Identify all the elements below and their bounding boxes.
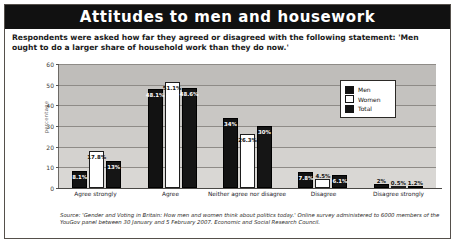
chart-page: Attitudes to men and housework Responden… xyxy=(0,0,457,247)
legend-label-men: Men xyxy=(358,86,371,93)
source-note: Source: 'Gender and Voting in Britain: H… xyxy=(60,212,445,226)
bar-women[interactable]: 17.8% xyxy=(89,151,104,188)
legend-swatch-women xyxy=(345,95,354,103)
x-axis-category-label: Neither agree nor disagree xyxy=(208,191,286,197)
chart-area: percentage 0102030405060 8.1%17.8%13%48.… xyxy=(10,58,447,210)
bar-value-label: 26.3% xyxy=(238,137,257,143)
bar-value-label: 8.1% xyxy=(72,174,87,180)
bar-men[interactable]: 34% xyxy=(223,118,238,188)
bar-group: 34%26.3%30% xyxy=(210,64,285,188)
bar-value-label: 1.2% xyxy=(408,180,423,186)
x-axis-labels: Agree stronglyAgreeNeither agree nor dis… xyxy=(58,191,436,197)
legend-item-women: Women xyxy=(345,95,392,103)
bar-men[interactable]: 8.1% xyxy=(72,171,87,188)
bar-total[interactable]: 48.6% xyxy=(182,88,197,188)
bar-men[interactable]: 48.1% xyxy=(148,89,163,188)
bar-value-label: 34% xyxy=(224,121,237,127)
bar-value-label: 30% xyxy=(258,129,271,135)
legend-item-total: Total xyxy=(345,105,392,113)
bar-women[interactable]: 4.5% xyxy=(315,179,330,188)
x-axis-category-label: Agree xyxy=(133,191,208,197)
bar-value-label: 4.5% xyxy=(315,173,330,179)
x-axis-line xyxy=(58,188,442,189)
x-axis-category-label: Agree strongly xyxy=(58,191,133,197)
bar-value-label: 7.8% xyxy=(298,175,313,181)
bar-total[interactable]: 13% xyxy=(106,161,121,188)
bar-total[interactable]: 6.1% xyxy=(332,175,347,188)
intro-paragraph: Respondents were asked how far they agre… xyxy=(12,33,442,53)
bar-value-label: 6.1% xyxy=(332,178,347,184)
legend-label-total: Total xyxy=(358,105,372,112)
bar-value-label: 17.8% xyxy=(87,154,106,160)
bar-value-label: 48.1% xyxy=(146,92,165,98)
bar-men[interactable]: 7.8% xyxy=(298,172,313,188)
x-axis-category-label: Disagree xyxy=(286,191,361,197)
bar-total[interactable]: 30% xyxy=(257,126,272,188)
title-banner: Attitudes to men and housework xyxy=(5,5,450,29)
bar-group: 48.1%51.1%48.6% xyxy=(134,64,209,188)
legend-swatch-total xyxy=(345,105,354,113)
bar-value-label: 13% xyxy=(107,164,120,170)
bar-value-label: 48.6% xyxy=(180,91,199,97)
page-title: Attitudes to men and housework xyxy=(80,8,375,26)
bar-value-label: 2% xyxy=(377,178,386,184)
bar-group: 8.1%17.8%13% xyxy=(59,64,134,188)
legend-label-women: Women xyxy=(358,96,381,103)
y-axis-title: percentage xyxy=(43,87,49,147)
bar-women[interactable]: 51.1% xyxy=(165,82,180,188)
legend-swatch-men xyxy=(345,86,354,94)
bar-value-label: 0.5% xyxy=(391,180,406,186)
bar-women[interactable]: 26.3% xyxy=(240,134,255,188)
legend-item-men: Men xyxy=(345,86,392,94)
bar-value-label: 51.1% xyxy=(163,85,182,91)
legend: Men Women Total xyxy=(340,80,396,118)
x-axis-category-label: Disagree strongly xyxy=(361,191,436,197)
